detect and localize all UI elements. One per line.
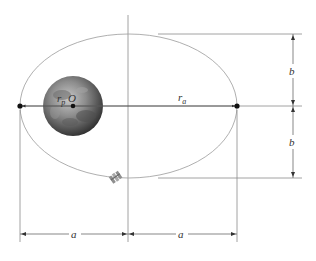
label-a-left: a <box>71 228 77 240</box>
label-b-bottom: b <box>289 136 295 148</box>
perigee-point <box>17 103 22 108</box>
label-b-top: b <box>289 65 295 77</box>
a-mid-arrow-left <box>122 232 127 236</box>
b-mid-arrow-up <box>291 100 295 105</box>
label-apogee-radius: ra <box>178 91 186 106</box>
b-top-arrow <box>291 35 295 40</box>
a-right-arrow <box>231 232 236 236</box>
focus-point <box>71 104 76 109</box>
orbit-diagram: rp O ra b b a a <box>0 0 316 261</box>
satellite-icon <box>109 170 123 184</box>
apogee-point <box>234 103 239 108</box>
b-bottom-arrow <box>291 172 295 177</box>
b-mid-arrow-down <box>291 107 295 112</box>
a-mid-arrow-right <box>129 232 134 236</box>
a-left-arrow <box>21 232 26 236</box>
label-focus: O <box>68 92 76 104</box>
label-a-right: a <box>178 228 184 240</box>
